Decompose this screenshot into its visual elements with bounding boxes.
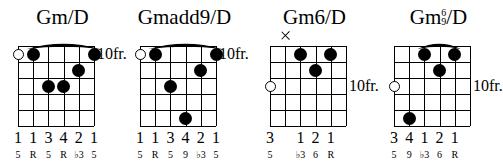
finger-dot [42, 80, 55, 93]
finger-number: 1 [448, 130, 462, 146]
fret-line [394, 62, 470, 63]
interval-label: 5 [207, 149, 225, 160]
finger-dot [72, 64, 85, 77]
open-string-marker [265, 81, 276, 92]
finger-number: 1 [148, 130, 162, 146]
fretboard-grid [18, 46, 94, 126]
fret-line [140, 110, 216, 111]
string-line [79, 46, 80, 126]
finger-number: 3 [263, 130, 277, 146]
finger-number-row: 113421 [140, 130, 216, 146]
string-line [316, 46, 317, 126]
chord-name: Gmadd9/D [122, 4, 247, 30]
finger-dot [27, 48, 40, 61]
barre-arc [26, 41, 101, 50]
finger-number: 1 [11, 130, 25, 146]
open-string-marker [389, 81, 400, 92]
fretboard-grid [140, 46, 216, 126]
chord-name-prefix: Gm [410, 5, 442, 29]
chord-name: Gm6/D [252, 4, 377, 30]
finger-number: 3 [41, 130, 55, 146]
fret-line [140, 78, 216, 79]
finger-number: 4 [179, 130, 193, 146]
string-line [440, 46, 441, 126]
finger-dot [403, 112, 416, 125]
finger-dot [309, 64, 322, 77]
fret-line [394, 78, 470, 79]
chord-name-text: Gm6/D [283, 5, 346, 29]
string-line [285, 46, 286, 126]
fret-line [140, 94, 216, 95]
fret-line [270, 78, 346, 79]
finger-dot [164, 80, 177, 93]
fretboard-grid [394, 46, 470, 126]
fret-line [18, 78, 94, 79]
barre-arc [148, 41, 223, 50]
chord-name: Gm/D [0, 4, 125, 30]
fret-line [18, 126, 94, 127]
finger-number: 2 [433, 130, 447, 146]
fret-line [140, 62, 216, 63]
fret-line [270, 46, 346, 47]
finger-number: 2 [309, 130, 323, 146]
finger-dot [448, 48, 461, 61]
finger-dot [57, 80, 70, 93]
fret-line [270, 62, 346, 63]
interval-row: 5R59♭35 [140, 149, 216, 162]
finger-dot [418, 48, 431, 61]
fret-line [18, 62, 94, 63]
fret-line [18, 110, 94, 111]
finger-number: 3 [163, 130, 177, 146]
interval-label: 5 [261, 149, 279, 160]
string-line [470, 46, 471, 126]
finger-number: 4 [402, 130, 416, 146]
open-string-marker [135, 49, 146, 60]
string-line [201, 46, 202, 126]
fret-line [18, 94, 94, 95]
fret-position-label: 10fr. [349, 78, 379, 94]
chord-name-text: Gm/D [36, 5, 89, 29]
chord-diagram: Gm69/D10fr.3412159♭36R [376, 0, 501, 168]
chord-diagram: Gmadd9/D10fr.1134215R59♭35 [122, 0, 247, 168]
finger-dot [433, 64, 446, 77]
chord-diagram: Gm6/D10fr.31215♭36R [252, 0, 377, 168]
chord-name: Gm69/D [376, 4, 501, 30]
finger-dot [149, 48, 162, 61]
finger-number: 1 [87, 130, 101, 146]
interval-label: R [322, 149, 340, 160]
muted-string-marker [280, 30, 291, 41]
finger-number: 1 [209, 130, 223, 146]
fret-line [270, 126, 346, 127]
finger-dot [179, 112, 192, 125]
fretboard-grid [270, 46, 346, 126]
chord-diagram: Gm/D10fr.1134215R5R♭35 [0, 0, 125, 168]
interval-row: 5♭36R [270, 149, 346, 162]
finger-number: 1 [26, 130, 40, 146]
finger-number-row: 34121 [394, 130, 470, 146]
finger-number: 3 [387, 130, 401, 146]
finger-number-row: 3121 [270, 130, 346, 146]
chord-name-suffix: /D [446, 5, 467, 29]
open-string-marker [13, 49, 24, 60]
fret-position-label: 10fr. [473, 78, 503, 94]
interval-row: 5R5R♭35 [18, 149, 94, 162]
finger-number: 1 [293, 130, 307, 146]
interval-row: 59♭36R [394, 149, 470, 162]
finger-number: 2 [72, 130, 86, 146]
finger-number: 1 [417, 130, 431, 146]
chord-name-text: Gmadd9/D [138, 5, 231, 29]
finger-number: 2 [194, 130, 208, 146]
finger-number: 1 [133, 130, 147, 146]
fret-line [140, 126, 216, 127]
fret-position-label: 10fr. [219, 46, 249, 62]
finger-number: 1 [324, 130, 338, 146]
fret-line [394, 94, 470, 95]
fret-line [270, 110, 346, 111]
string-line [346, 46, 347, 126]
interval-label: R [446, 149, 464, 160]
finger-dot [324, 48, 337, 61]
finger-dot [194, 64, 207, 77]
interval-label: 5 [85, 149, 103, 160]
fret-line [394, 110, 470, 111]
